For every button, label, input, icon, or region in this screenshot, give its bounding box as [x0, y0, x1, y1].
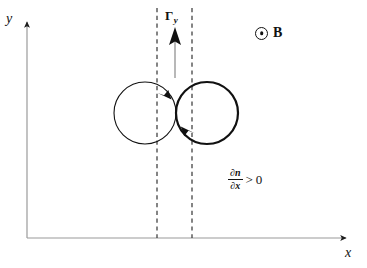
flux-arrow-label: Γy	[165, 9, 178, 25]
gamma-subscript: y	[174, 15, 178, 25]
gamma-symbol: Γ	[165, 8, 173, 23]
flux-arrow-group	[169, 27, 181, 78]
magnetic-field-label: B	[255, 26, 282, 40]
fraction-denominator: ∂x	[228, 180, 242, 191]
left-orbit-group	[114, 82, 176, 144]
relation-value: 0	[256, 173, 263, 186]
fraction-numerator: ∂n	[228, 168, 243, 180]
right-orbit-group	[176, 82, 238, 144]
partial-derivative-fraction: ∂n ∂x	[228, 168, 243, 192]
diagram-canvas: y x Γy B ∂n ∂x > 0	[0, 0, 367, 268]
left-orbit-arrowhead-icon	[158, 90, 172, 100]
left-orbit-circle	[114, 82, 176, 144]
x-axis-label: x	[345, 246, 351, 260]
diagram-svg	[0, 0, 367, 268]
right-orbit-arrowhead-icon	[181, 127, 195, 137]
circle-dot-icon	[255, 27, 268, 40]
relation-operator: >	[246, 173, 253, 186]
y-axis-label: y	[6, 12, 12, 26]
density-gradient-label: ∂n ∂x > 0	[228, 168, 262, 192]
magnetic-field-symbol: B	[273, 26, 282, 40]
